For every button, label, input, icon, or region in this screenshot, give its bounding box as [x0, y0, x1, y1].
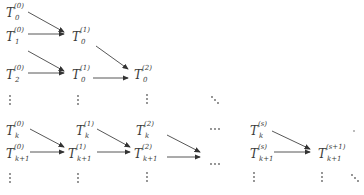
node-superscript: (1) — [80, 27, 90, 34]
node-base: T — [72, 30, 80, 44]
matrix-node-nk0: T(0)k — [6, 125, 19, 137]
node-base: T — [6, 68, 14, 82]
node-superscript: (1) — [84, 121, 94, 128]
node-subscript: 1 — [15, 38, 19, 46]
node-superscript: (2) — [144, 121, 154, 128]
node-superscript: (2) — [142, 65, 152, 72]
node-subscript: 0 — [143, 76, 147, 84]
node-superscript: (1) — [76, 144, 86, 151]
node-base: T — [134, 147, 142, 161]
node-superscript: (0) — [14, 144, 24, 151]
arrow-tk2-to-dots — [167, 135, 200, 152]
node-superscript: (0) — [14, 27, 24, 34]
node-superscript: (1) — [80, 65, 90, 72]
arrow-tk0-to-tk11 — [30, 129, 64, 147]
node-superscript: (2) — [142, 144, 152, 151]
matrix-node-nk1: T(1)k — [76, 125, 89, 137]
arrow-tks-to-tk1s1 — [272, 131, 310, 149]
node-superscript: (0) — [14, 121, 24, 128]
matrix-node-n00: T(0)0 — [6, 7, 19, 19]
matrix-node-n01b: T(1)0 — [72, 69, 85, 81]
node-subscript: 2 — [15, 76, 19, 84]
matrix-node-nks: T(s)k — [250, 125, 263, 137]
node-superscript: (s) — [258, 144, 267, 151]
matrix-node-nk10: T(0)k+1 — [6, 148, 30, 160]
node-base: T — [6, 30, 14, 44]
arrow-t00-to-t01 — [28, 12, 64, 32]
node-base: T — [250, 147, 258, 161]
matrix-node-n01a: T(1)0 — [72, 31, 85, 43]
matrix-node-nk2: T(2)k — [136, 125, 149, 137]
matrix-node-n20: T(0)2 — [6, 69, 19, 81]
matrix-node-nk1s: T(s)k+1 — [250, 148, 274, 160]
node-base: T — [68, 147, 76, 161]
arrow-tk1-to-tk12 — [97, 129, 130, 147]
node-subscript: k+1 — [15, 155, 30, 163]
matrix-node-nk1s1: T(s+1)k+1 — [318, 148, 342, 160]
node-subscript: k+1 — [327, 155, 342, 163]
node-subscript: k — [259, 132, 263, 140]
vdots-group — [9, 94, 359, 183]
matrix-node-n10: T(0)1 — [6, 31, 19, 43]
node-subscript: k — [15, 132, 19, 140]
node-base: T — [6, 6, 14, 20]
node-subscript: k+1 — [77, 155, 92, 163]
node-base: T — [250, 124, 258, 138]
node-subscript: 0 — [81, 76, 85, 84]
matrix-node-nk11: T(1)k+1 — [68, 148, 92, 160]
node-superscript: (0) — [14, 65, 24, 72]
arrow-t01a-to-t02 — [96, 46, 128, 69]
arrows-layer — [0, 0, 364, 195]
node-base: T — [136, 124, 144, 138]
node-superscript: (0) — [14, 3, 24, 10]
arrow-from-above-to-t01b — [28, 51, 64, 71]
node-superscript: (s) — [258, 121, 267, 128]
node-base: T — [318, 147, 326, 161]
node-base: T — [6, 124, 14, 138]
node-base: T — [72, 68, 80, 82]
node-subscript: k+1 — [259, 155, 274, 163]
matrix-node-n02: T(2)0 — [134, 69, 147, 81]
node-subscript: 0 — [15, 14, 19, 22]
node-subscript: k+1 — [143, 155, 158, 163]
node-superscript: (s+1) — [326, 144, 345, 151]
node-base: T — [76, 124, 84, 138]
node-base: T — [134, 68, 142, 82]
node-subscript: k — [145, 132, 149, 140]
node-base: T — [6, 147, 14, 161]
node-subscript: 0 — [81, 38, 85, 46]
matrix-node-nk12: T(2)k+1 — [134, 148, 158, 160]
node-subscript: k — [85, 132, 89, 140]
